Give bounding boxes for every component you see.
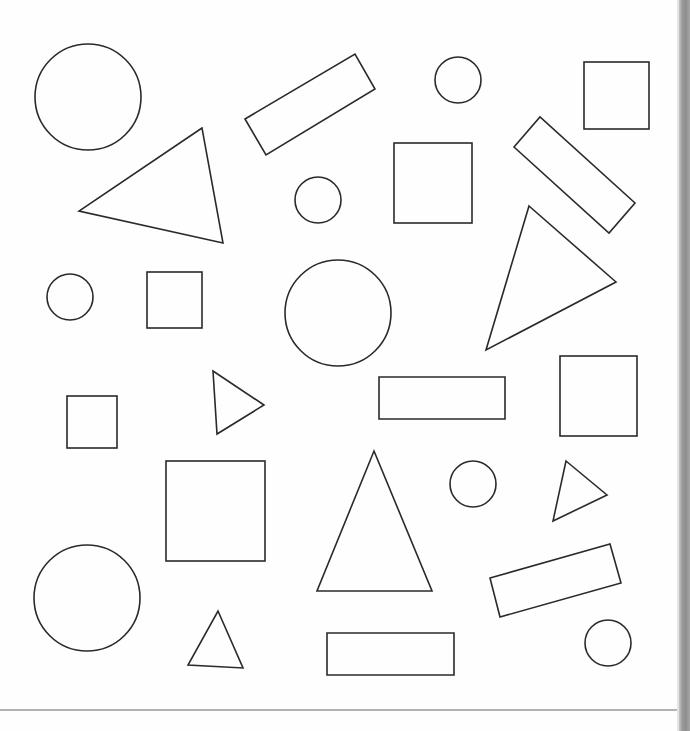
square-shape (67, 396, 117, 448)
bottom-rule-divider (0, 709, 680, 711)
shapes-canvas (0, 0, 690, 731)
circle-shape (295, 177, 341, 223)
circle-shape (34, 545, 140, 651)
circles-group (34, 44, 631, 666)
rectangle-shape (245, 54, 375, 155)
worksheet-page (0, 0, 690, 731)
rectangle-shape (327, 633, 454, 675)
triangle-shape (188, 611, 243, 668)
circle-shape (47, 274, 93, 320)
triangle-shape (486, 206, 616, 350)
square-shape (394, 143, 472, 223)
rectangles-group (245, 54, 635, 675)
circle-shape (285, 260, 391, 366)
book-spine-binding (679, 0, 690, 731)
square-shape (166, 461, 265, 561)
circle-shape (450, 461, 496, 507)
rectangle-shape (514, 117, 635, 233)
circle-shape (435, 57, 481, 103)
triangle-shape (553, 461, 607, 521)
triangle-shape (317, 451, 432, 591)
circle-shape (35, 44, 141, 150)
rectangle-shape (490, 544, 621, 617)
circle-shape (585, 620, 631, 666)
square-shape (147, 272, 202, 328)
triangle-shape (79, 128, 223, 243)
triangle-shape (213, 371, 264, 434)
square-shape (584, 62, 649, 129)
rectangle-shape (379, 377, 505, 419)
square-shape (560, 356, 637, 436)
triangles-group (79, 128, 616, 668)
